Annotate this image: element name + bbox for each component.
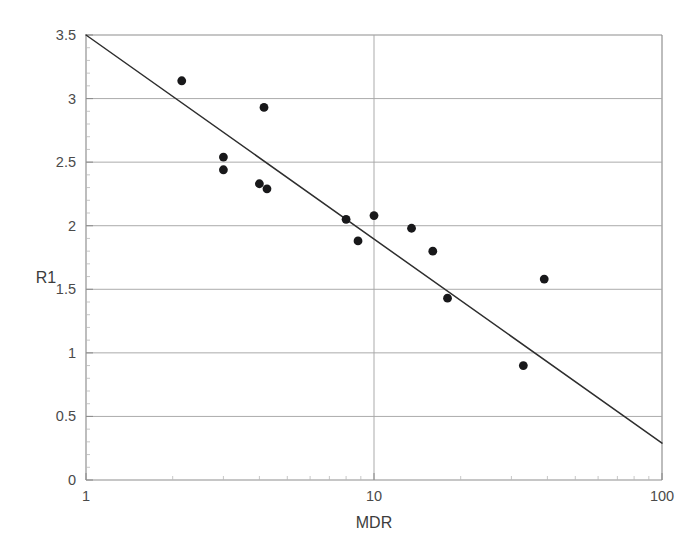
data-point [443,294,452,303]
y-axis-tick-label: 3.5 [56,27,76,43]
data-points-layer [177,76,548,370]
data-point [260,103,269,112]
x-axis-title: MDR [356,514,392,531]
y-axis-title: R1 [36,269,57,286]
scatter-plot-canvas: 00.511.522.533.5110100 MDR R1 [0,0,697,553]
data-point [255,179,264,188]
minor-tick-layer [86,48,649,480]
y-axis-tick-label: 1 [68,345,76,361]
data-point [540,275,549,284]
data-point [370,211,379,220]
y-axis-tick-label: 1.5 [56,281,76,297]
data-point [263,184,272,193]
data-point [407,224,416,233]
grid-layer [86,35,662,480]
data-point [219,153,228,162]
data-point [354,237,363,246]
y-axis-tick-label: 2.5 [56,154,76,170]
data-point [219,165,228,174]
data-point [342,215,351,224]
data-point [177,76,186,85]
y-axis-tick-label: 3 [68,91,76,107]
x-axis-tick-label: 10 [366,488,382,504]
y-axis-tick-label: 0.5 [56,408,76,424]
y-axis-tick-label: 2 [68,218,76,234]
chart-figure: 00.511.522.533.5110100 MDR R1 [0,0,697,553]
y-axis-tick-label: 0 [68,472,76,488]
data-point [428,247,437,256]
x-axis-tick-label: 100 [650,488,674,504]
data-point [519,361,528,370]
x-axis-tick-label: 1 [82,488,90,504]
